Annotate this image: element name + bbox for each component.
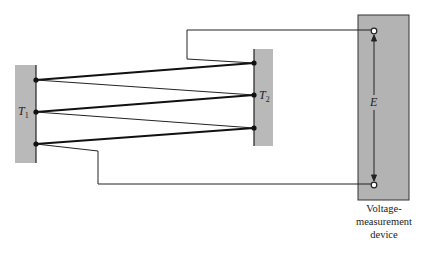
label-t1: T1 [18, 104, 29, 120]
label-emf: E [369, 95, 378, 110]
label-t2: T2 [259, 88, 270, 104]
terminal-top [371, 28, 377, 34]
terminal-bottom [371, 182, 377, 188]
wires-material-a [36, 63, 254, 144]
device-caption: Voltage- measurement device [344, 202, 424, 241]
voltage-measurement-device [358, 15, 409, 200]
